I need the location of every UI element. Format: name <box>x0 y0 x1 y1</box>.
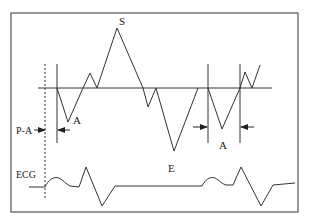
label-ecg: ECG <box>16 169 36 180</box>
ecg-trace <box>29 167 295 206</box>
diagram-frame <box>11 13 298 212</box>
label-e-trough: E <box>168 162 175 174</box>
label-a-trough: A <box>73 114 81 126</box>
label-p-a: P-A <box>16 125 33 136</box>
label-s-peak: S <box>119 15 125 27</box>
velocity-waveform <box>57 28 198 151</box>
label-a-interval: A <box>219 139 227 151</box>
velocity-waveform-second-beat <box>208 65 260 129</box>
waveform-diagram: S A E A P-A ECG <box>0 0 309 223</box>
